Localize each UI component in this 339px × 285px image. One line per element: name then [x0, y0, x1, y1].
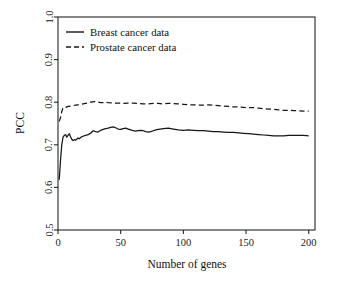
y-axis-title: PCC — [14, 112, 26, 134]
chart-figure: 0.50.60.70.80.91.0 050100150200 Breast c… — [0, 0, 339, 285]
line-chart: 0.50.60.70.80.91.0 050100150200 Breast c… — [0, 0, 339, 285]
x-tick-label: 100 — [175, 237, 191, 248]
y-tick-label: 0.9 — [44, 53, 55, 66]
y-tick-label: 0.7 — [44, 138, 55, 151]
x-tick-label: 200 — [301, 237, 317, 248]
y-tick-label: 0.8 — [44, 96, 55, 109]
x-tick-label: 150 — [238, 237, 254, 248]
legend-label-prostate: Prostate cancer data — [90, 41, 177, 53]
x-tick-label: 0 — [55, 237, 60, 248]
y-tick-label: 0.5 — [44, 223, 55, 236]
x-axis-title: Number of genes — [147, 258, 227, 271]
y-tick-label: 1.0 — [44, 10, 55, 23]
x-tick-label: 50 — [115, 237, 126, 248]
y-tick-label: 0.6 — [44, 181, 55, 194]
legend-label-breast: Breast cancer data — [90, 26, 169, 38]
